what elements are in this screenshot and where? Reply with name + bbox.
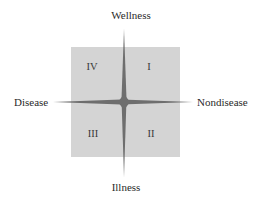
quadrant-label-iii: III bbox=[88, 128, 99, 140]
axis-label-illness: Illness bbox=[112, 181, 141, 193]
quadrant-label-iv: IV bbox=[86, 61, 97, 73]
quadrant-label-i: I bbox=[147, 61, 151, 73]
axis-label-wellness: Wellness bbox=[111, 9, 150, 21]
axis-label-nondisease: Nondisease bbox=[197, 96, 248, 108]
quadrant-label-ii: II bbox=[148, 128, 155, 140]
axis-label-disease: Disease bbox=[14, 96, 48, 108]
